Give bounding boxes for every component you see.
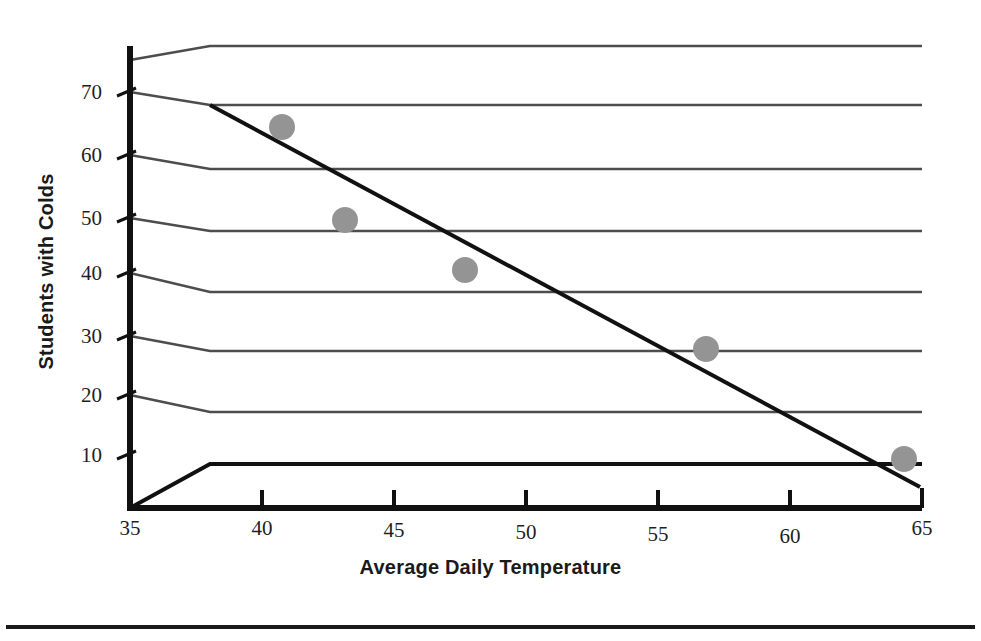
gridline-70 bbox=[130, 92, 922, 105]
y-tick-label-30: 30 bbox=[50, 324, 102, 349]
plot-area bbox=[0, 0, 981, 641]
x-tick-label-45: 45 bbox=[364, 518, 424, 543]
data-point[interactable] bbox=[891, 446, 917, 472]
data-point[interactable] bbox=[452, 257, 478, 283]
data-point[interactable] bbox=[332, 207, 358, 233]
data-point[interactable] bbox=[693, 336, 719, 362]
x-axis-title: Average Daily Temperature bbox=[0, 556, 981, 579]
gridline-30 bbox=[130, 336, 922, 351]
trendline bbox=[210, 105, 920, 487]
y-tick-label-20: 20 bbox=[50, 383, 102, 408]
gridline-50 bbox=[130, 218, 922, 231]
gridline-60 bbox=[130, 155, 922, 169]
x-tick-label-35: 35 bbox=[100, 516, 160, 541]
x-tick-label-65: 65 bbox=[892, 516, 952, 541]
y-tick-label-50: 50 bbox=[50, 206, 102, 231]
x-tick-label-40: 40 bbox=[232, 516, 292, 541]
axis-group bbox=[127, 46, 922, 510]
y-tick-label-60: 60 bbox=[50, 143, 102, 168]
y-tick-10 bbox=[117, 451, 136, 459]
x-tick-label-60: 60 bbox=[760, 524, 820, 549]
gridline-20 bbox=[130, 395, 922, 412]
x-tick-label-50: 50 bbox=[496, 520, 556, 545]
x-tick-label-55: 55 bbox=[628, 522, 688, 547]
scatter-plot-figure: 70 60 50 40 30 20 10 35 40 45 50 55 60 6… bbox=[0, 0, 981, 641]
y-tick-label-10: 10 bbox=[50, 443, 102, 468]
y-tick-label-40: 40 bbox=[50, 261, 102, 286]
gridline-top bbox=[130, 46, 922, 60]
y-axis-title: Students with Colds bbox=[35, 132, 58, 412]
y-tick-label-70: 70 bbox=[50, 80, 102, 105]
bottom-divider bbox=[6, 625, 975, 629]
data-point[interactable] bbox=[269, 114, 295, 140]
